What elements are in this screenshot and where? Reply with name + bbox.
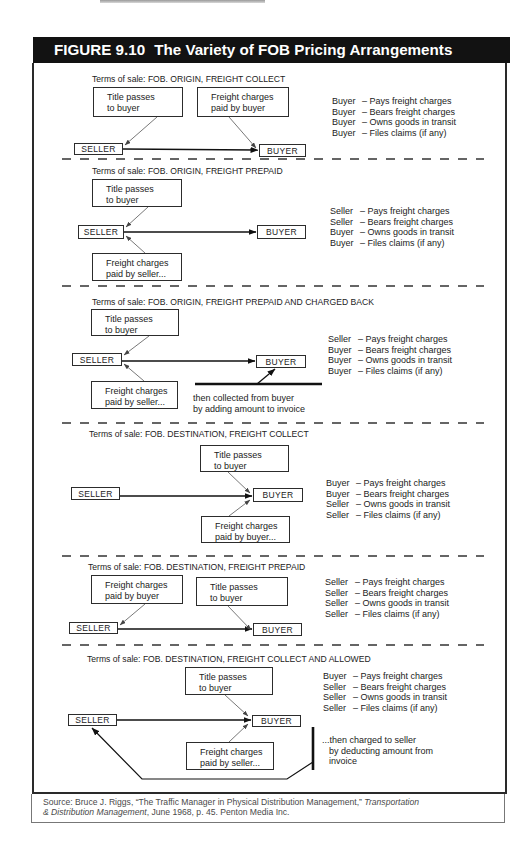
box-line: Freight charges — [211, 92, 288, 103]
duty-label: – Files claims (if any) — [360, 238, 445, 249]
box-line: to buyer — [107, 103, 182, 114]
responsibility-item: Seller– Files claims (if any) — [323, 703, 447, 714]
note-line: invoice — [322, 756, 433, 767]
freight-charges-box: Freight charges paid by seller... — [92, 253, 182, 281]
box-line: Freight charges — [215, 521, 289, 532]
seller-box: SELLER — [71, 487, 120, 500]
terms-of-sale-label: Terms of sale: FOB. DESTINATION, FREIGHT… — [89, 429, 309, 439]
duty-label: – Bears freight charges — [355, 588, 448, 599]
title-passes-box: Title passes to buyer — [92, 179, 182, 207]
allowance-note: ...then charged to seller by deducting a… — [322, 735, 433, 767]
party-label: Buyer — [326, 489, 356, 500]
duty-label: – Pays freight charges — [353, 671, 443, 682]
box-line: Title passes — [214, 450, 288, 461]
duty-label: – Owns goods in transit — [362, 117, 456, 128]
responsibility-list: Seller– Pays freight charges Seller– Bea… — [330, 206, 454, 249]
party-label: Seller — [326, 499, 356, 510]
box-line: paid by seller... — [200, 758, 273, 769]
responsibility-item: Buyer– Pays freight charges — [326, 478, 450, 489]
responsibility-item: Seller– Owns goods in transit — [326, 499, 450, 510]
party-label: Seller — [323, 692, 353, 703]
freight-charges-box: Freight charges paid by buyer — [91, 575, 183, 604]
responsibility-item: Buyer– Owns goods in transit — [332, 117, 456, 128]
responsibility-item: Seller– Owns goods in transit — [325, 598, 449, 609]
cropped-running-header — [100, 0, 265, 3]
duty-label: – Owns goods in transit — [353, 692, 447, 703]
responsibility-item: Seller– Bears freight charges — [325, 588, 449, 599]
party-label: Buyer — [330, 227, 360, 238]
party-label: Buyer — [328, 355, 358, 366]
note-line: ...then charged to seller — [322, 735, 433, 746]
figure-title: The Variety of FOB Pricing Arrangements — [154, 41, 452, 58]
box-line: Title passes — [107, 92, 182, 103]
seller-box: SELLER — [74, 143, 123, 155]
box-line: paid by seller... — [105, 397, 177, 408]
note-line: by deducting amount from — [322, 746, 433, 757]
box-line: to buyer — [214, 461, 288, 472]
buyer-box: BUYER — [253, 488, 303, 502]
box-line: to buyer — [199, 683, 272, 694]
title-passes-box: Title passes to buyer — [91, 309, 179, 336]
buyer-box: BUYER — [256, 355, 306, 368]
seller-box: SELLER — [69, 622, 118, 634]
duty-label: – Owns goods in transit — [355, 598, 449, 609]
party-label: Buyer — [326, 478, 356, 489]
box-line: paid by buyer — [105, 591, 182, 602]
responsibility-item: Buyer– Pays freight charges — [323, 671, 447, 682]
seller-box: SELLER — [68, 714, 117, 726]
responsibility-list: Buyer– Pays freight charges Buyer– Bears… — [332, 96, 456, 139]
duty-label: – Files claims (if any) — [353, 703, 438, 714]
box-line: paid by buyer — [211, 103, 288, 114]
responsibility-item: Seller– Bears freight charges — [323, 682, 447, 693]
seller-box: SELLER — [78, 225, 124, 239]
party-label: Seller — [325, 577, 355, 588]
title-passes-box: Title passes to buyer — [196, 577, 288, 606]
box-line: Freight charges — [106, 258, 181, 269]
party-label: Buyer — [328, 366, 358, 377]
box-line: Title passes — [210, 582, 287, 593]
party-label: Buyer — [330, 238, 360, 249]
seller-box: SELLER — [72, 353, 122, 366]
party-label: Seller — [323, 703, 353, 714]
duty-label: – Bears freight charges — [362, 107, 455, 118]
responsibility-item: Seller– Files claims (if any) — [326, 510, 450, 521]
title-passes-box: Title passes to buyer — [200, 445, 289, 472]
duty-label: – Bears freight charges — [358, 345, 451, 356]
duty-label: – Files claims (if any) — [356, 510, 441, 521]
responsibility-item: Seller– Pays freight charges — [325, 577, 449, 588]
terms-of-sale-label: Terms of sale: FOB. ORIGIN, FREIGHT COLL… — [92, 74, 285, 84]
party-label: Seller — [325, 609, 355, 620]
freight-charges-box: Freight charges paid by seller... — [186, 742, 274, 770]
box-line: Title passes — [199, 672, 272, 683]
duty-label: – Files claims (if any) — [355, 609, 440, 620]
party-label: Seller — [323, 682, 353, 693]
duty-label: – Bears freight charges — [356, 489, 449, 500]
freight-charges-box: Freight charges paid by seller... — [91, 381, 178, 409]
party-label: Buyer — [323, 671, 353, 682]
figure-header: FIGURE 9.10The Variety of FOB Pricing Ar… — [33, 37, 510, 63]
responsibility-item: Buyer– Files claims (if any) — [328, 366, 452, 377]
responsibility-item: Buyer– Owns goods in transit — [330, 227, 454, 238]
responsibility-item: Buyer– Bears freight charges — [328, 345, 452, 356]
box-line: paid by buyer... — [215, 532, 289, 543]
terms-of-sale-label: Terms of sale: FOB. ORIGIN, FREIGHT PREP… — [92, 166, 283, 176]
duty-label: – Pays freight charges — [362, 96, 452, 107]
party-label: Seller — [326, 510, 356, 521]
party-label: Seller — [330, 206, 360, 217]
responsibility-list: Buyer– Pays freight charges Seller– Bear… — [323, 671, 447, 714]
buyer-box: BUYER — [259, 144, 306, 157]
source-prefix: Source: Bruce J. Riggs, “The Traffic Man… — [43, 797, 364, 807]
box-line: Freight charges — [105, 580, 182, 591]
title-passes-box: Title passes to buyer — [185, 667, 273, 695]
party-label: Buyer — [332, 128, 362, 139]
freight-charges-box: Freight charges paid by buyer... — [201, 516, 290, 543]
duty-label: – Pays freight charges — [356, 478, 446, 489]
responsibility-item: Seller– Files claims (if any) — [325, 609, 449, 620]
terms-of-sale-label: Terms of sale: FOB. ORIGIN, FREIGHT PREP… — [92, 297, 374, 307]
note-line: then collected from buyer — [193, 393, 305, 404]
responsibility-item: Buyer– Pays freight charges — [332, 96, 456, 107]
responsibility-item: Buyer– Owns goods in transit — [328, 355, 452, 366]
responsibility-item: Seller– Pays freight charges — [328, 334, 452, 345]
responsibility-item: Seller– Pays freight charges — [330, 206, 454, 217]
duty-label: – Pays freight charges — [355, 577, 445, 588]
